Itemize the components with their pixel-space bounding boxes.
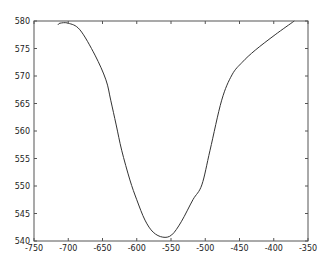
y-tick-label: 565 — [15, 100, 30, 109]
y-tick-label: 575 — [15, 45, 30, 54]
x-tick-label: -400 — [265, 244, 283, 253]
x-tick-label: -600 — [128, 244, 146, 253]
x-axis: -750-700-650-600-550-500-450-400-350 — [25, 21, 317, 253]
y-tick-label: 550 — [15, 182, 30, 191]
line-chart: -750-700-650-600-550-500-450-400-350 540… — [0, 0, 328, 263]
y-tick-label: 555 — [15, 155, 30, 164]
y-tick-label: 580 — [15, 17, 30, 26]
y-tick-label: 560 — [15, 127, 30, 136]
y-tick-label: 570 — [15, 72, 30, 81]
y-tick-label: 540 — [15, 237, 30, 246]
data-line — [58, 21, 294, 237]
x-tick-label: -550 — [162, 244, 180, 253]
x-tick-label: -650 — [93, 244, 111, 253]
x-tick-label: -500 — [196, 244, 214, 253]
y-tick-label: 545 — [15, 210, 30, 219]
y-axis: 540545550555560565570575580 — [15, 17, 308, 246]
x-tick-label: -350 — [299, 244, 317, 253]
x-tick-label: -700 — [59, 244, 77, 253]
x-tick-label: -450 — [230, 244, 248, 253]
axes-frame — [34, 21, 308, 241]
